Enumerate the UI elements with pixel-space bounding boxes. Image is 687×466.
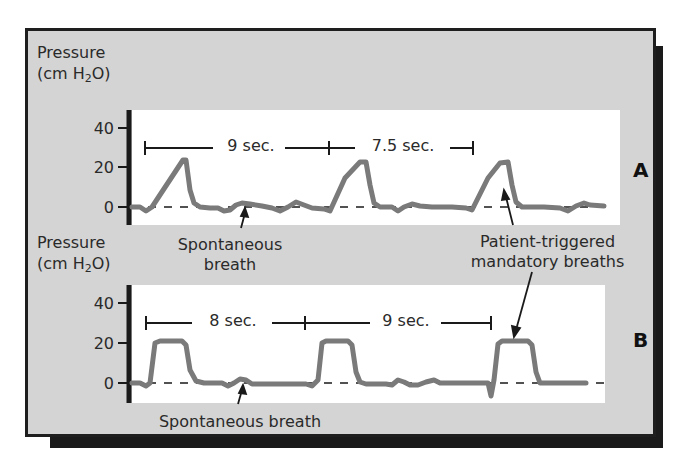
- y-axis-title-line1: Pressure: [37, 42, 111, 63]
- panel-a-spontaneous-breath-label: Spontaneous breath: [165, 235, 295, 275]
- panel-b-tick-20: 20: [82, 333, 114, 354]
- panel-b-y-axis-title: Pressure (cm H2O): [37, 232, 111, 274]
- panel-a-tick-0: 0: [82, 197, 114, 218]
- y-axis-title-line2: (cm H2O): [37, 253, 111, 274]
- panel-a-tick-20: 20: [82, 157, 114, 178]
- y-axis-title-line1: Pressure: [37, 232, 111, 253]
- panel-b-label: B: [633, 328, 648, 352]
- panel-a-tick-40: 40: [82, 118, 114, 139]
- panel-b-interval-2: 9 sec.: [374, 311, 438, 331]
- panel-a-y-axis-title: Pressure (cm H2O): [37, 42, 111, 84]
- panel-a-interval-1: 9 sec.: [218, 136, 284, 156]
- panel-a-label: A: [633, 158, 648, 182]
- panel-b-interval-1: 8 sec.: [198, 311, 268, 331]
- patient-triggered-label: Patient-triggered mandatory breaths: [460, 232, 635, 272]
- panel-b-tick-0: 0: [82, 373, 114, 394]
- panel-a-interval-2: 7.5 sec.: [358, 136, 448, 156]
- panel-b-tick-40: 40: [82, 293, 114, 314]
- panel-b-spontaneous-breath-label: Spontaneous breath: [140, 412, 340, 432]
- y-axis-title-line2: (cm H2O): [37, 63, 111, 84]
- panel-b-y-axis: [118, 285, 129, 403]
- panel-a-y-axis: [118, 110, 129, 225]
